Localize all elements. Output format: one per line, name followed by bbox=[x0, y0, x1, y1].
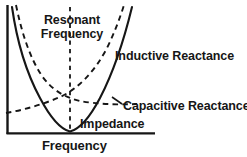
inductive-reactance-label: Inductive Reactance bbox=[115, 49, 234, 63]
capacitive-reactance-leader-line bbox=[112, 97, 122, 104]
resonant-frequency-label-line2: Frequency bbox=[36, 27, 108, 41]
resonant-frequency-label: Resonant Frequency bbox=[36, 13, 108, 41]
x-axis-title: Frequency bbox=[42, 139, 107, 154]
capacitive-reactance-label: Capacitive Reactance bbox=[123, 99, 247, 113]
impedance-label: Impedance bbox=[80, 117, 144, 131]
resonant-frequency-label-line1: Resonant bbox=[44, 13, 100, 27]
resonance-diagram: Resonant Frequency Inductive Reactance C… bbox=[0, 0, 247, 157]
